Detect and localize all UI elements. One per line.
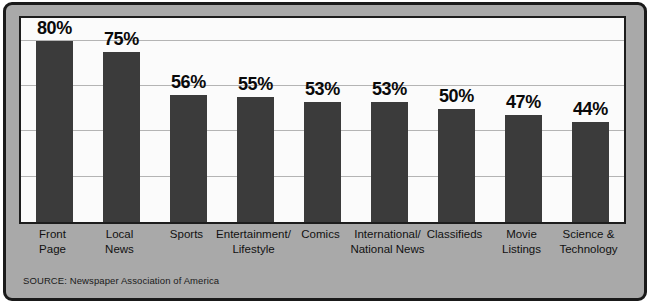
bar-value-label: 55% [224,74,287,95]
category-label-line: Science & [535,227,642,242]
plot-area: 80%75%56%55%53%53%50%47%44% [19,16,626,224]
category-label-line: National News [334,242,441,257]
bar-column[interactable]: 50% [438,18,475,222]
bar[interactable] [170,95,207,222]
bar-value-label: 53% [358,79,421,100]
category-label-line: News [66,242,173,257]
bar[interactable] [237,97,274,222]
bar[interactable] [438,109,475,222]
bar[interactable] [36,41,73,222]
bar-value-label: 80% [23,18,86,39]
bar-column[interactable]: 56% [170,18,207,222]
bar[interactable] [371,102,408,222]
bar-column[interactable]: 80% [36,18,73,222]
bar[interactable] [572,122,609,222]
bar[interactable] [304,102,341,222]
bar[interactable] [103,52,140,222]
source-note: SOURCE: Newspaper Association of America [23,275,219,286]
bar-column[interactable]: 53% [304,18,341,222]
bar-value-label: 75% [90,29,153,50]
chart-figure: 80%75%56%55%53%53%50%47%44% FrontPageLoc… [3,2,647,301]
bar-column[interactable]: 53% [371,18,408,222]
bar-column[interactable]: 55% [237,18,274,222]
bar-column[interactable]: 47% [505,18,542,222]
bar-value-label: 44% [559,99,622,120]
bar-column[interactable]: 75% [103,18,140,222]
bar-value-label: 50% [425,86,488,107]
category-labels-group: FrontPageLocalNewsSportsEntertainment/Li… [19,227,626,271]
bar-value-label: 47% [492,92,555,113]
bar[interactable] [505,115,542,222]
category-label-line: Technology [535,242,642,257]
category-label-line: Lifestyle [200,242,307,257]
bar-column[interactable]: 44% [572,18,609,222]
category-label: Science &Technology [535,227,642,256]
bar-value-label: 53% [291,79,354,100]
bar-value-label: 56% [157,72,220,93]
bars-group: 80%75%56%55%53%53%50%47%44% [21,18,624,222]
